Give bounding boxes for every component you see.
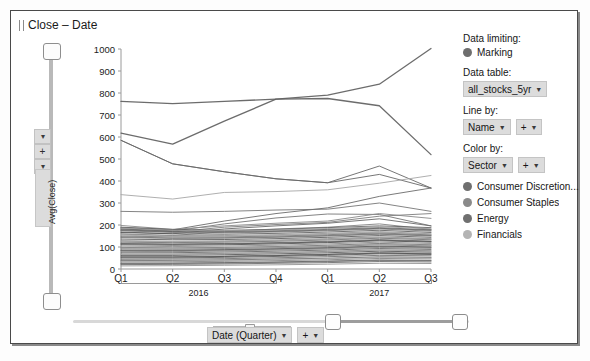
color-by-row[interactable]: Sector ▼ + ▼ xyxy=(463,157,583,173)
color-by-plus: + xyxy=(523,160,529,171)
chevron-down-icon: ▼ xyxy=(312,332,319,339)
color-by-label: Color by: xyxy=(463,143,583,154)
x-axis-plus: + xyxy=(302,330,308,341)
legend-color-dot-icon xyxy=(463,198,472,207)
color-legend[interactable]: Consumer Discretion...Consumer StaplesEn… xyxy=(463,181,583,240)
svg-text:300: 300 xyxy=(99,198,115,209)
x-axis-dropdown[interactable]: Date (Quarter) ▼ xyxy=(207,327,292,343)
svg-text:400: 400 xyxy=(99,176,115,187)
chart-plot-area[interactable]: 10009008007006005004003002001000 xyxy=(83,41,443,291)
color-by-value: Sector xyxy=(468,160,497,171)
x-axis-value: Date (Quarter) xyxy=(212,330,276,341)
x-axis-group-bracket-cap xyxy=(328,280,329,284)
line-by-row[interactable]: Name ▼ + ▼ xyxy=(463,119,583,135)
legend-item[interactable]: Financials xyxy=(463,229,583,240)
svg-text:200: 200 xyxy=(99,220,115,231)
y-slider-handle-top[interactable] xyxy=(43,43,61,60)
data-table-dropdown[interactable]: all_stocks_5yr ▼ xyxy=(463,81,547,97)
color-by-add-dropdown[interactable]: + ▼ xyxy=(518,157,545,173)
chevron-down-icon: ▼ xyxy=(501,162,508,169)
x-axis-group-bracket xyxy=(328,283,431,284)
svg-text:600: 600 xyxy=(99,132,115,143)
y-slider-handle-bottom[interactable] xyxy=(43,293,61,310)
date-slider-handle-right[interactable] xyxy=(452,314,468,330)
legend-item-label: Energy xyxy=(477,213,509,224)
chevron-down-icon: ▼ xyxy=(533,162,540,169)
data-limiting-label: Data limiting: xyxy=(463,33,583,44)
svg-text:900: 900 xyxy=(99,66,115,77)
chevron-down-icon: ▼ xyxy=(530,124,537,131)
y-axis-add-button[interactable]: + xyxy=(34,144,51,159)
x-axis-group-label: 2017 xyxy=(369,288,389,298)
chevron-down-icon: ▼ xyxy=(280,332,287,339)
line-by-plus: + xyxy=(521,122,527,133)
x-axis-group-labels: 20162017 xyxy=(121,287,433,301)
drag-handle-icon[interactable] xyxy=(19,20,24,31)
y-axis-label: Avg(Close) xyxy=(47,180,57,224)
x-axis-group-bracket xyxy=(121,283,276,284)
color-by-dropdown[interactable]: Sector ▼ xyxy=(463,157,513,173)
x-axis-group-bracket-cap xyxy=(276,280,277,284)
svg-text:100: 100 xyxy=(99,242,115,253)
window-title-bar[interactable]: Close – Date xyxy=(19,17,97,33)
date-slider-selected-range[interactable] xyxy=(332,320,459,323)
legend-color-dot-icon xyxy=(463,214,472,223)
line-by-value: Name xyxy=(468,122,495,133)
svg-text:500: 500 xyxy=(99,154,115,165)
legend-color-dot-icon xyxy=(463,182,472,191)
y-axis-selector[interactable]: Avg(Close) xyxy=(35,169,51,227)
line-by-add-dropdown[interactable]: + ▼ xyxy=(516,119,543,135)
x-axis-group-bracket-cap xyxy=(431,280,432,284)
legend-item-label: Financials xyxy=(477,229,522,240)
marking-row[interactable]: Marking xyxy=(463,47,583,58)
marking-dot-icon xyxy=(463,48,472,57)
y-axis-chevron-up-icon[interactable]: ▾ xyxy=(34,129,51,144)
marking-label: Marking xyxy=(477,47,513,58)
date-slider-handle-left[interactable] xyxy=(325,314,341,330)
page-title: Close – Date xyxy=(28,18,97,32)
svg-text:700: 700 xyxy=(99,110,115,121)
chevron-down-icon: ▼ xyxy=(499,124,506,131)
legend-item-label: Consumer Staples xyxy=(477,197,559,208)
line-by-dropdown[interactable]: Name ▼ xyxy=(463,119,511,135)
x-axis-add-dropdown[interactable]: + ▼ xyxy=(297,327,324,343)
chevron-down-icon: ▼ xyxy=(535,86,542,93)
visualization-window: Close – Date ▾ + ▾ Avg(Close) 1000900800… xyxy=(10,10,578,344)
legend-color-dot-icon xyxy=(463,230,472,239)
line-chart-svg: 10009008007006005004003002001000 xyxy=(83,41,443,291)
x-axis-group-label: 2016 xyxy=(188,288,208,298)
data-table-row[interactable]: all_stocks_5yr ▼ xyxy=(463,81,583,97)
screenshot-root: Close – Date ▾ + ▾ Avg(Close) 1000900800… xyxy=(0,0,590,361)
x-axis-group-bracket-cap xyxy=(121,280,122,284)
x-axis-controls[interactable]: Date (Quarter) ▼ + ▼ xyxy=(207,327,324,343)
chart-settings-panel[interactable]: Data limiting: Marking Data table: all_s… xyxy=(463,33,583,233)
line-by-label: Line by: xyxy=(463,105,583,116)
svg-text:800: 800 xyxy=(99,88,115,99)
legend-item[interactable]: Energy xyxy=(463,213,583,224)
data-table-value: all_stocks_5yr xyxy=(468,84,531,95)
legend-item[interactable]: Consumer Staples xyxy=(463,197,583,208)
y-axis-controls[interactable]: ▾ + ▾ xyxy=(35,129,50,174)
legend-item-label: Consumer Discretion... xyxy=(477,181,579,192)
data-table-label: Data table: xyxy=(463,67,583,78)
legend-item[interactable]: Consumer Discretion... xyxy=(463,181,583,192)
svg-text:1000: 1000 xyxy=(94,44,115,55)
